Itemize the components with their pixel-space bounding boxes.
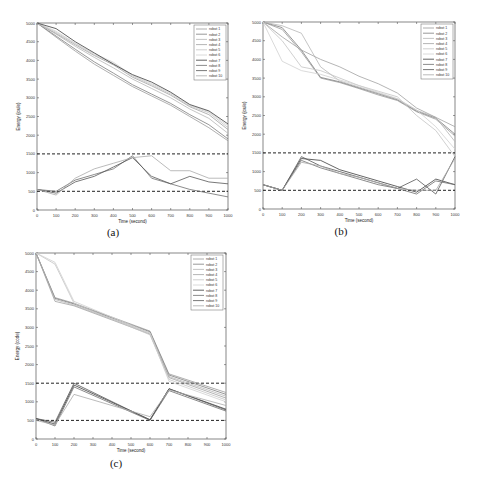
x-tick-label: 900 xyxy=(204,442,211,447)
y-tick-label: 3000 xyxy=(252,94,262,99)
legend-label: robot 5 xyxy=(209,48,220,52)
legend-label: robot 8 xyxy=(436,63,447,67)
legend-label: robot 2 xyxy=(436,32,447,36)
legend-label: robot 10 xyxy=(436,73,449,77)
y-tick-label: 1000 xyxy=(252,169,262,174)
y-tick-label: 1500 xyxy=(26,151,36,156)
caption-b: (b) xyxy=(326,225,356,237)
legend-label: robot 7 xyxy=(209,59,220,63)
legend-label: robot 7 xyxy=(206,289,217,293)
x-tick-label: 1000 xyxy=(224,213,234,218)
legend-label: robot 9 xyxy=(209,69,220,73)
x-tick-label: 1000 xyxy=(451,212,461,217)
y-tick-label: 1500 xyxy=(25,381,35,386)
legend-label: robot 8 xyxy=(209,64,220,68)
legend-label: robot 1 xyxy=(209,27,220,31)
y-tick-label: 0 xyxy=(32,437,35,442)
y-tick-label: 2000 xyxy=(25,362,35,367)
legend-label: robot 5 xyxy=(206,278,217,282)
x-tick-label: 800 xyxy=(186,213,193,218)
x-tick-label: 1000 xyxy=(222,442,232,447)
legend-label: robot 6 xyxy=(209,53,220,57)
y-tick-label: 3500 xyxy=(26,77,36,82)
caption-c: (c) xyxy=(101,457,131,469)
y-tick-label: 3500 xyxy=(252,76,262,81)
caption-a: (a) xyxy=(98,226,128,238)
y-tick-label: 500 xyxy=(28,189,35,194)
y-tick-label: 5000 xyxy=(25,251,35,256)
legend-label: robot 2 xyxy=(209,33,220,37)
x-tick-label: 0 xyxy=(35,442,38,447)
y-tick-label: 2000 xyxy=(26,133,36,138)
y-tick-label: 2000 xyxy=(252,132,262,137)
x-axis-label: Time (second) xyxy=(118,219,147,224)
legend: robot 1robot 2robot 3robot 4robot 5robot… xyxy=(191,255,223,310)
y-axis-label: Energy (joule) xyxy=(16,102,21,131)
x-tick-label: 400 xyxy=(110,213,117,218)
legend-label: robot 3 xyxy=(436,37,447,41)
x-tick-label: 800 xyxy=(185,442,192,447)
y-tick-label: 3500 xyxy=(25,306,35,311)
y-tick-label: 1000 xyxy=(25,399,35,404)
legend: robot 1robot 2robot 3robot 4robot 5robot… xyxy=(421,24,453,79)
y-tick-label: 0 xyxy=(259,207,262,212)
legend-label: robot 2 xyxy=(206,263,217,267)
x-tick-label: 700 xyxy=(166,442,173,447)
y-tick-label: 3000 xyxy=(26,95,36,100)
x-tick-label: 400 xyxy=(109,442,116,447)
legend-label: robot 10 xyxy=(206,304,219,308)
x-tick-label: 200 xyxy=(298,212,305,217)
y-tick-label: 1000 xyxy=(26,170,36,175)
legend-label: robot 5 xyxy=(436,47,447,51)
y-tick-label: 2500 xyxy=(252,113,262,118)
legend-label: robot 6 xyxy=(206,283,217,287)
legend-label: robot 1 xyxy=(206,257,217,261)
x-tick-label: 900 xyxy=(432,212,439,217)
y-axis-label: Energy (joule) xyxy=(242,101,247,130)
x-tick-label: 300 xyxy=(90,442,97,447)
legend-label: robot 9 xyxy=(436,68,447,72)
x-tick-label: 700 xyxy=(394,212,401,217)
x-tick-label: 100 xyxy=(52,442,59,447)
y-tick-label: 4500 xyxy=(252,38,262,43)
x-tick-label: 600 xyxy=(375,212,382,217)
y-tick-label: 2500 xyxy=(26,114,36,119)
x-tick-label: 0 xyxy=(36,213,39,218)
x-tick-label: 500 xyxy=(356,212,363,217)
x-tick-label: 200 xyxy=(72,213,79,218)
y-axis-label: Energy (code) xyxy=(15,331,20,360)
y-tick-label: 4000 xyxy=(26,58,36,63)
y-tick-label: 4000 xyxy=(252,57,262,62)
legend-label: robot 8 xyxy=(206,294,217,298)
legend: robot 1robot 2robot 3robot 4robot 5robot… xyxy=(194,25,226,80)
x-tick-label: 800 xyxy=(413,212,420,217)
legend-label: robot 4 xyxy=(209,43,220,47)
y-tick-label: 500 xyxy=(254,188,261,193)
x-tick-label: 200 xyxy=(71,442,78,447)
y-tick-label: 5000 xyxy=(252,20,262,25)
x-axis-label: Time (second) xyxy=(345,218,374,223)
x-tick-label: 100 xyxy=(53,213,60,218)
y-tick-label: 5000 xyxy=(26,21,36,26)
y-tick-label: 2500 xyxy=(25,344,35,349)
x-tick-label: 900 xyxy=(206,213,213,218)
legend-label: robot 10 xyxy=(209,74,222,78)
y-tick-label: 3000 xyxy=(25,325,35,330)
x-tick-label: 0 xyxy=(262,212,265,217)
legend-label: robot 4 xyxy=(436,42,447,46)
y-tick-label: 1500 xyxy=(252,150,262,155)
legend-label: robot 3 xyxy=(209,38,220,42)
x-tick-label: 600 xyxy=(147,442,154,447)
x-tick-label: 500 xyxy=(129,213,136,218)
legend-label: robot 9 xyxy=(206,299,217,303)
x-tick-label: 400 xyxy=(336,212,343,217)
y-tick-label: 4000 xyxy=(25,288,35,293)
legend-label: robot 3 xyxy=(206,268,217,272)
legend-label: robot 6 xyxy=(436,52,447,56)
y-tick-label: 4500 xyxy=(26,39,36,44)
x-tick-label: 600 xyxy=(148,213,155,218)
x-tick-label: 700 xyxy=(167,213,174,218)
x-axis-label: Time (second) xyxy=(117,448,146,453)
legend-label: robot 1 xyxy=(436,26,447,30)
y-tick-label: 0 xyxy=(33,208,36,213)
